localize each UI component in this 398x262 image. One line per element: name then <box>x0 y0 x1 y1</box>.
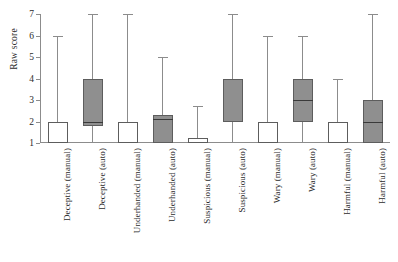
y-axis-tick-label: 7 <box>29 9 34 19</box>
y-axis-tick-label: 6 <box>29 31 34 41</box>
whisker-cap-upper <box>298 36 308 37</box>
y-axis-tick-label: 3 <box>29 95 34 105</box>
box-plot-item[interactable] <box>118 14 138 143</box>
y-axis-tick-mark <box>36 79 40 80</box>
y-axis-tick-mark <box>36 100 40 101</box>
whisker-cap-upper <box>53 36 63 37</box>
whisker-cap-upper <box>333 79 343 80</box>
y-axis-tick-mark <box>36 57 40 58</box>
box-plot-item[interactable] <box>48 14 68 143</box>
box-plot-item[interactable] <box>258 14 278 143</box>
box-rect[interactable] <box>83 79 103 126</box>
x-axis-tick-label: Deceptive (auto) <box>97 148 107 210</box>
box-plot-figure: Raw score 1234567 Deceptive (manual)Dece… <box>0 0 398 262</box>
box-rect[interactable] <box>118 122 138 144</box>
x-axis-tick-label: Wary (auto) <box>307 148 317 192</box>
x-axis-tick-label: Wary (manual) <box>272 148 282 203</box>
whisker-cap-upper <box>123 14 133 15</box>
x-axis-tick-label: Underhanded (manual) <box>132 148 142 233</box>
y-axis-tick-mark <box>36 36 40 37</box>
y-axis-tick-label: 1 <box>29 138 34 148</box>
plot-area: 1234567 <box>40 14 390 143</box>
median-line <box>363 122 383 123</box>
box-rect[interactable] <box>223 79 243 122</box>
box-plot-item[interactable] <box>223 14 243 143</box>
x-axis-tick-label: Underhanded (auto) <box>167 148 177 222</box>
y-axis-label: Raw score <box>9 13 19 85</box>
x-axis-tick-label: Harmful (auto) <box>377 148 387 204</box>
whisker-cap-upper <box>88 14 98 15</box>
median-line <box>153 119 173 120</box>
y-axis-tick-mark <box>36 122 40 123</box>
y-axis-tick-label: 2 <box>29 117 34 127</box>
box-plot-item[interactable] <box>188 14 208 143</box>
y-axis-tick-label: 4 <box>29 74 34 84</box>
box-rect[interactable] <box>48 122 68 144</box>
box-rect[interactable] <box>188 138 208 143</box>
whisker-cap-upper <box>263 36 273 37</box>
box-plot-item[interactable] <box>363 14 383 143</box>
x-axis-tick-label: Suspicious (manual) <box>202 148 212 224</box>
y-axis-tick-mark <box>36 14 40 15</box>
y-axis-tick-mark <box>36 143 40 144</box>
box-rect[interactable] <box>328 122 348 144</box>
y-axis-tick-label: 5 <box>29 52 34 62</box>
whisker-cap-upper <box>368 14 378 15</box>
median-line <box>293 100 313 101</box>
box-rect[interactable] <box>258 122 278 144</box>
y-axis-line <box>40 14 41 143</box>
box-plot-item[interactable] <box>83 14 103 143</box>
x-axis-tick-label: Deceptive (manual) <box>62 148 72 221</box>
median-line <box>83 122 103 123</box>
whisker-cap-upper <box>158 57 168 58</box>
whisker-cap-upper <box>193 106 203 107</box>
x-axis-tick-label: Suspicious (auto) <box>237 148 247 212</box>
whisker-cap-upper <box>228 14 238 15</box>
box-plot-item[interactable] <box>153 14 173 143</box>
box-plot-item[interactable] <box>293 14 313 143</box>
x-axis-tick-label: Harmful (manual) <box>342 148 352 215</box>
box-plot-item[interactable] <box>328 14 348 143</box>
